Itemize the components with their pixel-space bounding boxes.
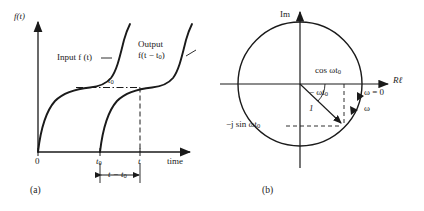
angle-label-sub: 0 xyxy=(325,90,328,97)
panel-b-drawing xyxy=(212,0,424,211)
magnitude-label: 1 xyxy=(309,104,314,113)
tick-label-origin: 0 xyxy=(35,157,40,166)
panel-b-caption: (b) xyxy=(262,185,273,195)
sin-component-sub: 0 xyxy=(257,122,260,129)
panel-a-time-domain: f(t) time 0 t0 t Input f (t) Output f(t … xyxy=(0,0,212,211)
angle-label: − ωt0 xyxy=(309,88,328,98)
cos-component-sub: 0 xyxy=(338,68,341,75)
input-curve-label-expr: f (t) xyxy=(78,52,92,62)
panel-a-caption: (a) xyxy=(30,185,41,195)
input-curve xyxy=(38,24,130,152)
output-curve-label-close: ) xyxy=(162,50,165,60)
omega-zero-label: ω = 0 xyxy=(364,88,384,97)
y-axis-label: f(t) xyxy=(14,12,25,21)
figure-container: f(t) time 0 t0 t Input f (t) Output f(t … xyxy=(0,0,424,211)
input-curve-label-prefix: Input xyxy=(57,52,78,62)
panel-b-complex-plane: Im Rℓ cos ωt0 −j sin ωt0 − ωt0 1 ω = 0 ω… xyxy=(212,0,424,211)
real-axis-label: Rℓ xyxy=(393,76,402,85)
x-axis-label: time xyxy=(167,157,183,166)
delay-label: t0 xyxy=(108,76,114,86)
dimension-label: t − t0 xyxy=(108,170,127,180)
sin-component-text: −j sin ωt xyxy=(226,119,257,129)
cos-component-label: cos ωt0 xyxy=(315,66,341,76)
delay-label-sub: 0 xyxy=(111,78,114,85)
dimension-label-sub: 0 xyxy=(124,172,127,179)
panel-a-drawing xyxy=(0,0,212,211)
tick-label-t0: t0 xyxy=(96,157,102,167)
tick-label-t0-sub: 0 xyxy=(99,159,102,166)
output-curve-label-expr: f(t − t xyxy=(138,50,159,60)
sin-component-label: −j sin ωt0 xyxy=(226,120,260,130)
omega-label: ω xyxy=(364,104,370,113)
tick-label-t: t xyxy=(138,157,141,166)
cos-component-text: cos ωt xyxy=(315,65,338,75)
dimension-label-base: t − t xyxy=(108,169,124,179)
output-label-leader xyxy=(186,50,196,56)
imaginary-axis-label: Im xyxy=(280,10,290,19)
input-curve-label: Input f (t) xyxy=(57,53,92,62)
output-curve-label-line1: Output xyxy=(138,40,165,49)
angle-label-text: − ωt xyxy=(309,87,325,97)
output-curve-label-line2: f(t − t0) xyxy=(138,51,165,61)
output-curve-label: Output f(t − t0) xyxy=(138,40,165,61)
